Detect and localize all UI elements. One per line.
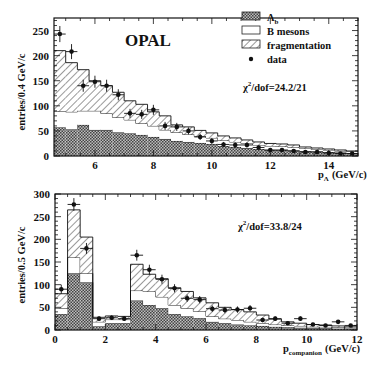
data-point: [348, 323, 353, 328]
histogram-bin: [193, 311, 206, 318]
histogram-bin: [218, 146, 230, 156]
histogram-bin: [55, 308, 68, 314]
data-point: [291, 149, 296, 154]
top-y-axis-label: entries/0.4 GeV/c: [16, 53, 27, 130]
histogram-bin: [206, 322, 219, 330]
histogram-bin: [105, 323, 118, 330]
data-point: [69, 49, 74, 54]
legend-marker-data: [249, 57, 253, 61]
y-tick-label: 200: [34, 233, 51, 245]
data-point: [280, 148, 285, 153]
y-tick-label: 300: [34, 188, 51, 200]
histogram-bin: [229, 147, 241, 156]
data-point: [116, 92, 121, 97]
histogram-bin: [253, 142, 265, 145]
legend-swatch-lambda-b: [242, 12, 260, 20]
data-point: [260, 318, 265, 323]
histogram-bin: [181, 308, 194, 316]
histogram-bin: [148, 126, 160, 137]
data-point: [235, 307, 240, 312]
data-point: [163, 124, 168, 129]
histogram-bin: [143, 305, 156, 330]
data-point: [122, 316, 127, 321]
histogram-bin: [105, 320, 118, 324]
y-tick-label: 150: [34, 256, 51, 268]
histogram-bin: [193, 318, 206, 330]
x-tick-label: 2: [103, 333, 109, 345]
histogram-bin: [101, 113, 113, 130]
data-point: [315, 150, 320, 155]
data-point: [210, 139, 215, 144]
data-point: [59, 287, 64, 292]
data-point: [151, 108, 156, 113]
experiment-title: OPAL: [125, 31, 171, 50]
histogram-bin: [77, 125, 89, 156]
bottom-panel: 024681012050100150200250300 χ2/dof=33.8/…: [16, 188, 363, 357]
data-point: [285, 321, 290, 326]
legend-label-b-mesons: B mesons: [267, 26, 309, 37]
histogram-bin: [183, 134, 195, 142]
histogram-bin: [118, 323, 131, 330]
histogram-bin: [112, 132, 124, 156]
histogram-bin: [55, 294, 68, 309]
x-tick-label: 10: [301, 333, 313, 345]
histogram-bin: [112, 117, 124, 132]
y-tick-label: 50: [38, 125, 50, 137]
y-tick-label: 50: [39, 301, 51, 313]
data-point: [186, 129, 191, 134]
data-point: [128, 111, 133, 116]
data-point: [172, 286, 177, 291]
histogram-bin: [143, 274, 156, 291]
histogram-bin: [66, 112, 78, 130]
data-point: [81, 83, 86, 88]
histogram-bin: [156, 297, 169, 308]
top-x-axis-label: pΛ(GeV/c): [318, 169, 367, 183]
histogram-bin: [219, 323, 232, 330]
data-point: [109, 315, 114, 320]
data-point: [197, 297, 202, 302]
data-point: [298, 316, 303, 321]
bottom-y-axis-label: entries/0.5 GeV/c: [16, 226, 27, 303]
histogram-bin: [131, 291, 144, 301]
x-tick-label: 8: [254, 333, 260, 345]
data-point: [104, 83, 109, 88]
series-fragmentation: [55, 210, 357, 328]
histogram-bin: [159, 139, 171, 156]
data-point: [336, 320, 341, 325]
histogram-bin: [136, 135, 148, 156]
histogram-bin: [229, 138, 241, 142]
histogram-bin: [131, 301, 144, 330]
data-point: [72, 202, 77, 207]
figure: 68101214050100150200250 OPAL Λb B mesons…: [0, 0, 381, 371]
y-tick-label: 250: [34, 211, 51, 223]
histogram-bin: [124, 120, 136, 134]
histogram-bin: [80, 237, 93, 273]
histogram-bin: [168, 314, 181, 330]
histogram-bin: [171, 132, 183, 141]
histogram-bin: [181, 316, 194, 330]
legend-label-data: data: [267, 54, 288, 65]
y-tick-label: 0: [44, 150, 50, 162]
y-tick-label: 250: [33, 25, 50, 37]
histogram-bin: [89, 111, 101, 130]
data-point: [311, 322, 316, 327]
histogram-bin: [93, 322, 106, 327]
y-tick-label: 0: [45, 324, 51, 336]
data-point: [84, 246, 89, 251]
histogram-bin: [218, 136, 230, 141]
x-tick-label: 4: [153, 333, 159, 345]
data-point: [139, 112, 144, 117]
legend-swatch-fragmentation: [242, 40, 260, 48]
x-tick-label: 6: [203, 333, 209, 345]
histogram-bin: [159, 130, 171, 139]
histogram-bin: [143, 291, 156, 305]
data-points: [55, 198, 357, 328]
legend: Λb B mesons fragmentation data: [242, 12, 331, 65]
data-point: [248, 306, 253, 311]
data-point: [303, 150, 308, 155]
data-point: [350, 151, 355, 156]
data-point: [273, 316, 278, 321]
data-point: [233, 143, 238, 148]
histogram-bin: [68, 210, 81, 258]
histogram-bin: [244, 312, 257, 322]
